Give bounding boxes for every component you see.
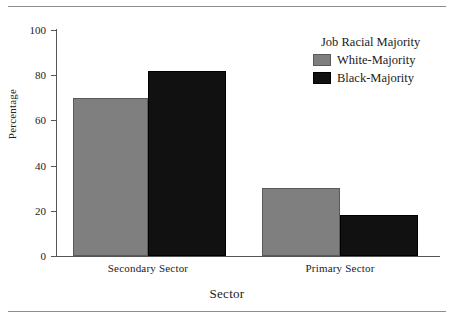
- bar-black-majority-secondary-sector: [148, 71, 226, 256]
- legend-label-white-majority: White-Majority: [337, 53, 415, 67]
- x-category-label-secondary-sector: Secondary Sector: [73, 262, 223, 274]
- y-tick-label-100: 100: [12, 25, 46, 36]
- chart-figure: 100 80 60 40 20 0 Percentage Secondary S…: [0, 0, 454, 320]
- legend: Job Racial Majority White-Majority Black…: [313, 34, 449, 86]
- legend-swatch-black-majority: [313, 72, 331, 84]
- y-tick-label-20: 20: [12, 206, 46, 217]
- bar-white-majority-secondary-sector: [73, 98, 148, 256]
- x-category-label-primary-sector: Primary Sector: [265, 262, 415, 274]
- legend-label-black-majority: Black-Majority: [337, 71, 414, 85]
- legend-swatch-white-majority: [313, 54, 331, 66]
- y-tick-label-0: 0: [12, 251, 46, 262]
- y-axis-title: Percentage: [6, 59, 18, 169]
- legend-item-white-majority: White-Majority: [313, 51, 449, 68]
- x-axis-title: Sector: [0, 286, 454, 302]
- y-tick-mark-0: [51, 256, 56, 257]
- legend-item-black-majority: Black-Majority: [313, 69, 449, 86]
- legend-title: Job Racial Majority: [321, 34, 449, 50]
- bar-white-majority-primary-sector: [262, 188, 340, 256]
- bar-black-majority-primary-sector: [340, 215, 418, 256]
